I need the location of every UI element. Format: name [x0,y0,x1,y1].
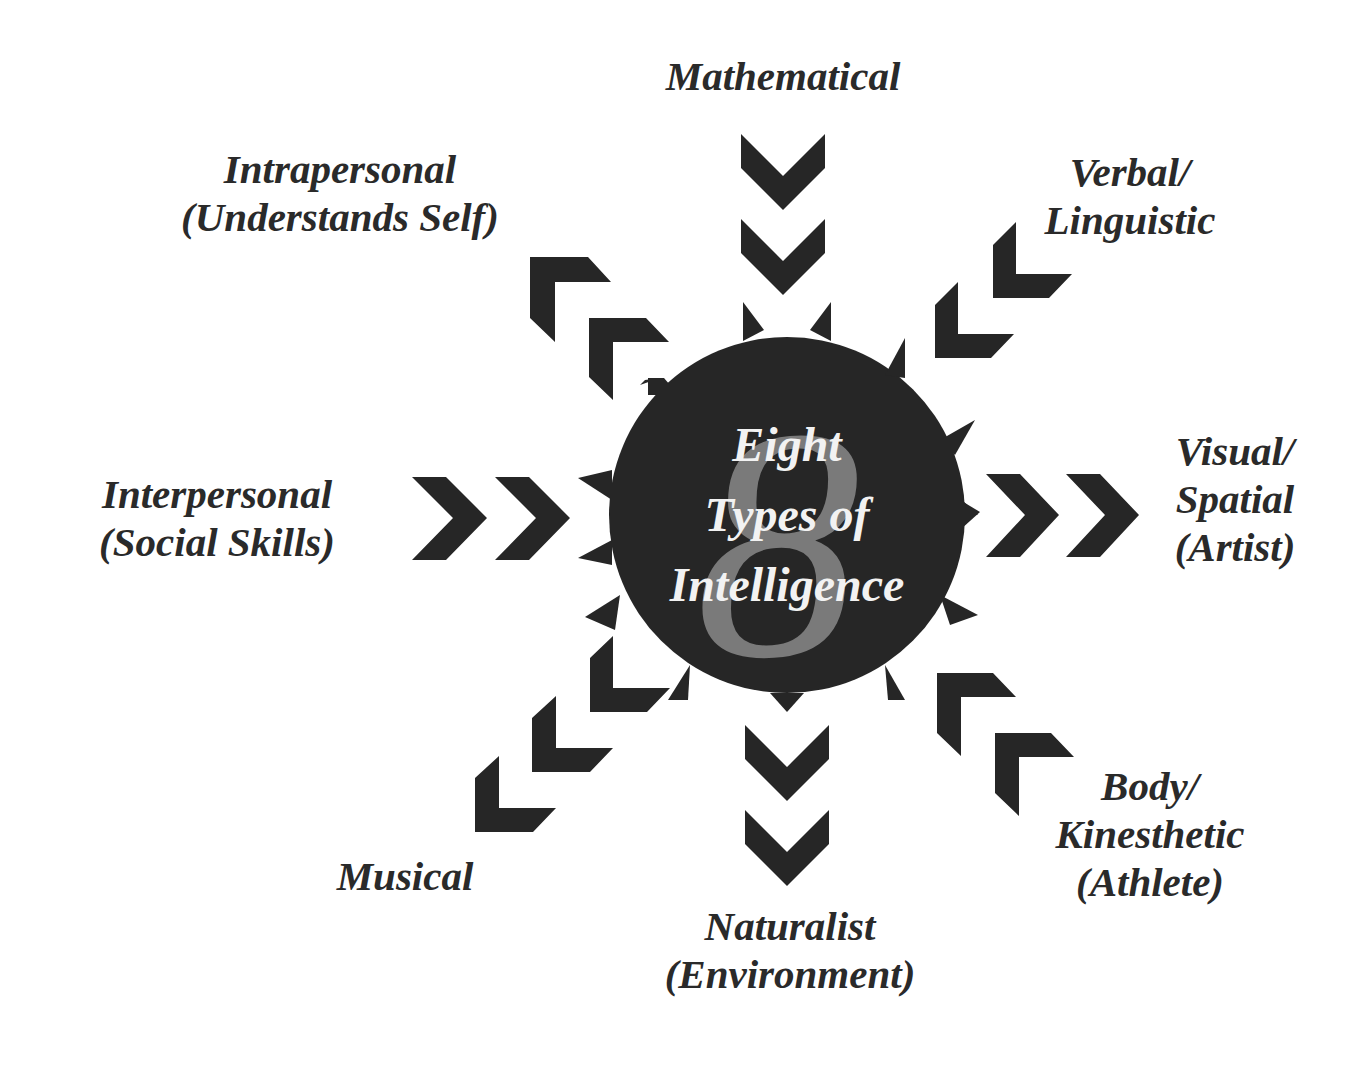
chevrons-mathematical [741,134,825,295]
label-body-kinesthetic: Body/ Kinesthetic (Athlete) [1030,762,1270,906]
label-visual-spatial: Visual/ Spatial (Artist) [1150,427,1320,571]
chevrons-visual-spatial [986,474,1139,557]
center-title-line-1: Eight [607,410,967,480]
label-naturalist: Naturalist (Environment) [620,902,960,998]
label-interpersonal: Interpersonal (Social Skills) [62,470,372,566]
chevrons-intrapersonal [530,257,670,400]
label-verbal-linguistic: Verbal/ Linguistic [1020,148,1240,244]
label-intrapersonal: Intrapersonal (Understands Self) [140,145,540,241]
chevrons-musical [475,636,670,832]
center-title: Eight Types of Intelligence [607,410,967,620]
center-title-line-3: Intelligence [607,550,967,620]
center-title-line-2: Types of [607,480,967,550]
label-mathematical: Mathematical [633,52,933,100]
chevrons-interpersonal [412,477,570,560]
label-musical: Musical [300,852,510,900]
chevrons-naturalist [745,725,829,886]
